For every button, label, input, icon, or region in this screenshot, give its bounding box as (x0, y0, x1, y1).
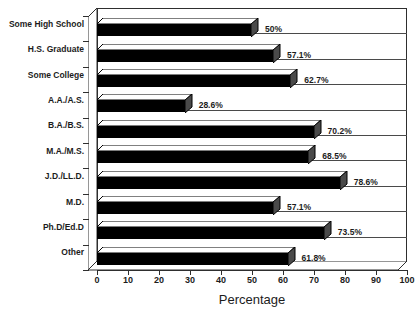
category-label: H.S. Graduate (28, 44, 84, 54)
x-tick-label: 30 (185, 275, 195, 285)
bar-top-face (97, 120, 322, 126)
category-label: Some High School (9, 19, 84, 29)
category-tick (83, 67, 89, 68)
bar (97, 171, 341, 184)
bar (97, 94, 186, 107)
bar-side-face (314, 120, 321, 139)
category-tick (83, 143, 89, 144)
category-tick (83, 16, 89, 17)
data-label: 57.1% (287, 202, 311, 212)
category-label: M.A./M.S. (46, 146, 84, 156)
data-label: 57.1% (287, 50, 311, 60)
data-label: 61.8% (302, 253, 326, 263)
bar (97, 69, 291, 82)
category-tick (83, 118, 89, 119)
data-label: 73.5% (338, 227, 362, 237)
x-tick-label: 40 (216, 275, 226, 285)
data-label: 28.6% (199, 100, 223, 110)
category-label: M.D. (66, 197, 84, 207)
bar (97, 120, 315, 133)
bar-top-face (97, 69, 298, 75)
x-tick-label: 60 (278, 275, 288, 285)
category-tick (83, 219, 89, 220)
category-axis: Some High SchoolH.S. GraduateSome Colleg… (0, 8, 88, 270)
bar-top-face (97, 145, 316, 151)
bar-side-face (273, 44, 280, 63)
x-tick-label: 90 (371, 275, 381, 285)
data-label: 78.6% (354, 177, 378, 187)
bar-side-face (308, 145, 315, 164)
bar (97, 221, 325, 234)
bar-top-face (97, 171, 348, 177)
bar-top-face (97, 44, 281, 50)
x-axis-title: Percentage (97, 292, 407, 307)
bar (97, 247, 289, 260)
bar-top-face (97, 221, 332, 227)
category-label: B.A./B.S. (48, 120, 84, 130)
category-tick (83, 168, 89, 169)
x-tick-label: 20 (154, 275, 164, 285)
data-label: 68.5% (322, 151, 346, 161)
data-label: 70.2% (328, 126, 352, 136)
bar-side-face (273, 196, 280, 215)
category-tick (83, 92, 89, 93)
chart-title (0, 0, 414, 2)
x-tick-label: 0 (94, 275, 99, 285)
bar (97, 18, 252, 31)
bar-top-face (97, 196, 281, 202)
bar-top-face (97, 247, 296, 253)
bar-side-face (251, 18, 258, 37)
bar-side-face (290, 69, 297, 88)
category-label: Some College (28, 70, 84, 80)
bar-side-face (185, 94, 192, 113)
bar-side-face (324, 221, 331, 240)
data-label: 62.7% (304, 75, 328, 85)
category-label: J.D./LL.D. (45, 171, 84, 181)
data-label: 50% (265, 24, 282, 34)
x-tick-label: 70 (309, 275, 319, 285)
bar-top-face (97, 18, 259, 24)
category-tick (83, 245, 89, 246)
bar-side-face (340, 171, 347, 190)
x-tick-label: 100 (399, 275, 414, 285)
bar (97, 44, 274, 57)
category-tick (83, 194, 89, 195)
category-label: A.A./A.S. (48, 95, 84, 105)
x-tick-label: 10 (123, 275, 133, 285)
category-label: Other (61, 247, 84, 257)
x-tick-label: 50 (247, 275, 257, 285)
x-axis: 0102030405060708090100 (88, 270, 414, 286)
bar-top-face (97, 94, 193, 100)
bar (97, 196, 274, 209)
x-tick-label: 80 (340, 275, 350, 285)
bar (97, 145, 309, 158)
category-tick (83, 41, 89, 42)
bar-side-face (288, 247, 295, 266)
category-label: Ph.D/Ed.D (43, 222, 84, 232)
